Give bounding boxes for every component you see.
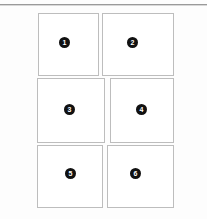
panel-grid: 123456 [0,0,207,219]
badge-2: 2 [127,37,138,48]
badge-1: 1 [59,37,70,48]
badge-3: 3 [64,104,75,115]
page-root: 123456 [0,0,207,219]
badge-6: 6 [130,168,141,179]
panel-2[interactable] [102,13,174,76]
badge-5: 5 [65,168,76,179]
panel-6[interactable] [107,145,174,208]
badge-4: 4 [136,104,147,115]
